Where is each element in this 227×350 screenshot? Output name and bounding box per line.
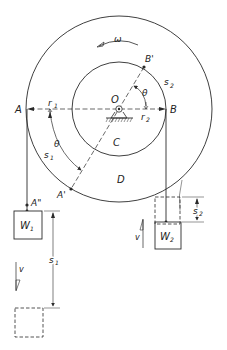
svg-text:r: r <box>48 98 53 108</box>
svg-text:s: s <box>49 255 54 265</box>
pulley-diagram: ω θ θ <box>0 0 227 350</box>
r1-tick-icon <box>48 109 52 116</box>
rotated-radius-line <box>71 67 144 189</box>
label-velocity-right: v <box>135 233 140 242</box>
label-A-prime: A' <box>56 190 66 200</box>
weight-W1-displaced-box <box>15 308 43 337</box>
pivot-support-icon <box>106 106 133 122</box>
label-D: D <box>117 174 125 185</box>
svg-text:1: 1 <box>50 154 54 161</box>
s1-dim-top-arrow-icon <box>51 212 55 218</box>
label-O: O <box>111 94 119 105</box>
point-B-prime-dot <box>142 65 145 68</box>
svg-text:1: 1 <box>55 259 59 266</box>
arrow-to-A-icon <box>27 107 34 111</box>
label-A: A <box>14 104 22 115</box>
svg-text:2: 2 <box>199 210 203 217</box>
svg-text:2: 2 <box>170 82 174 89</box>
svg-text:2: 2 <box>146 116 150 123</box>
velocity-right-arrowhead-icon <box>140 219 143 230</box>
label-C: C <box>113 137 120 148</box>
label-B-prime: B' <box>145 54 154 64</box>
svg-text:s: s <box>193 206 198 216</box>
r2-tick-icon <box>144 102 148 109</box>
svg-text:1: 1 <box>54 102 58 109</box>
arrow-to-B-icon <box>159 107 166 111</box>
label-disp-s1: s 1 <box>49 255 59 266</box>
label-r1: r 1 <box>48 98 58 109</box>
label-r2: r 2 <box>141 112 150 123</box>
label-disp-s2: s 2 <box>193 206 203 217</box>
velocity-left-arrowhead-icon <box>16 280 20 291</box>
svg-text:2: 2 <box>170 236 174 243</box>
label-A-double-prime: A" <box>30 198 41 208</box>
s2-dim-top-arrow-icon <box>195 198 199 204</box>
omega-label: ω <box>114 34 122 44</box>
label-B: B <box>170 104 177 115</box>
svg-text:1: 1 <box>30 225 34 232</box>
svg-text:s: s <box>44 150 49 160</box>
arc-s2-extension <box>179 180 182 210</box>
point-A-prime-dot <box>69 187 72 190</box>
theta-inner-label: θ <box>142 88 148 98</box>
svg-text:s: s <box>164 77 169 87</box>
label-arc-s1: s 1 <box>44 150 54 161</box>
weight-W2-original-box <box>155 197 180 224</box>
label-arc-s2: s 2 <box>164 77 174 89</box>
label-velocity-left: v <box>19 265 24 274</box>
theta-outer-label: θ <box>54 139 60 149</box>
